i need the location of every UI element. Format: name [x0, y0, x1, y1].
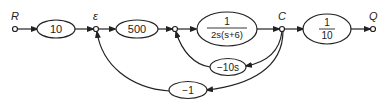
label-plant-denominator: 2s(s+6) [211, 29, 243, 40]
label-outer-feedback: −1 [182, 85, 194, 96]
label-scale-numerator: 1 [324, 17, 330, 28]
node-q [371, 27, 376, 32]
signal-flow-diagram: R ε C Q 10 500 1 2s(s+6) 1 10 −10s −1 [0, 0, 389, 105]
node-junction [173, 27, 178, 32]
label-scale-denominator: 10 [321, 30, 333, 41]
node-c [280, 27, 285, 32]
node-label-q: Q [369, 10, 378, 22]
node-label-r: R [11, 10, 19, 22]
node-label-c: C [278, 10, 286, 22]
node-error [94, 27, 99, 32]
label-gain-500: 500 [128, 23, 146, 35]
node-r [13, 27, 18, 32]
label-inner-feedback: −10s [217, 62, 239, 73]
node-label-error: ε [93, 10, 98, 22]
label-gain-10: 10 [50, 23, 62, 35]
label-plant-numerator: 1 [224, 16, 230, 27]
